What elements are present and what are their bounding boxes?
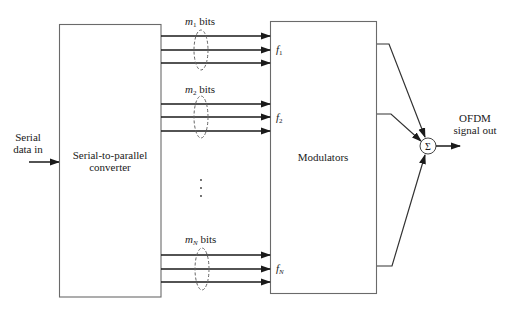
output-wire-2 [377, 114, 421, 141]
input-label-line2: data in [13, 143, 43, 155]
modulators-block: Modulators [271, 22, 377, 294]
serial-data-input: Serial data in [13, 131, 59, 162]
input-label-line1: Serial [15, 131, 41, 143]
output-label-line1: OFDM [459, 112, 491, 124]
group-2-bits-label: m2 bits [185, 83, 215, 97]
group-n-bits-label: mN bits [185, 233, 216, 247]
subcarrier-group-n: mN bits fN [161, 233, 284, 290]
ellipsis-dots [200, 179, 202, 197]
ofdm-block-diagram: Serial data in Serial-to-parallel conver… [0, 0, 509, 310]
modulators-label: Modulators [298, 151, 349, 163]
sigma-icon: Σ [425, 141, 431, 152]
group-1-bits-label: m1 bits [185, 15, 215, 29]
output-wire-n [377, 155, 425, 266]
converter-label-line1: Serial-to-parallel [73, 149, 148, 161]
output-label-line2: signal out [453, 124, 496, 136]
ofdm-output-label: OFDM signal out [453, 112, 496, 136]
serial-to-parallel-converter-block: Serial-to-parallel converter [60, 25, 162, 298]
modulator-outputs [377, 44, 425, 266]
subcarrier-group-1: m1 bits f1 [161, 15, 283, 70]
subcarrier-group-2: m2 bits f2 [161, 83, 283, 138]
summer-node: Σ [420, 138, 460, 154]
converter-label-line2: converter [89, 161, 131, 173]
